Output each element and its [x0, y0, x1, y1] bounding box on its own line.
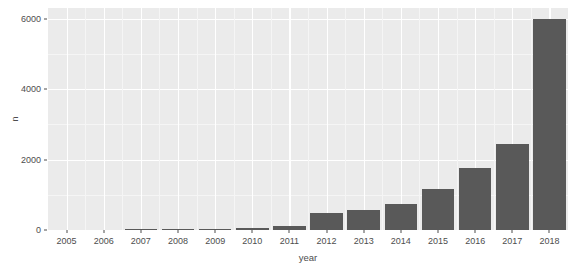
gridline-minor-vertical: [85, 8, 86, 230]
gridline-major-vertical: [67, 8, 68, 230]
bar-2013: [347, 210, 380, 230]
x-axis-tick-label: 2018: [539, 236, 559, 246]
x-axis-tick-mark: [178, 230, 179, 233]
gridline-minor-vertical: [419, 8, 420, 230]
gridline-minor-vertical: [382, 8, 383, 230]
plot-panel: [48, 8, 568, 230]
gridline-minor-vertical: [159, 8, 160, 230]
gridline-minor-vertical: [308, 8, 309, 230]
x-axis-tick-mark: [438, 230, 439, 233]
x-axis-tick-mark: [400, 230, 401, 233]
x-axis-tick-mark: [549, 230, 550, 233]
gridline-major-vertical: [215, 8, 216, 230]
x-axis-tick-mark: [66, 230, 67, 233]
x-axis-tick-label: 2016: [465, 236, 485, 246]
gridline-major-vertical: [141, 8, 142, 230]
gridline-major-vertical: [104, 8, 105, 230]
bar-2015: [422, 189, 455, 230]
gridline-minor-vertical: [531, 8, 532, 230]
x-axis-tick-mark: [475, 230, 476, 233]
bar-2016: [459, 168, 492, 230]
x-axis-tick-mark: [215, 230, 216, 233]
x-axis-tick-label: 2005: [57, 236, 77, 246]
gridline-minor-vertical: [234, 8, 235, 230]
x-axis-tick-mark: [363, 230, 364, 233]
y-axis-tick-label: 6000: [21, 14, 41, 24]
x-axis-tick-mark: [140, 230, 141, 233]
x-axis-tick-label: 2008: [168, 236, 188, 246]
x-axis-tick-label: 2015: [428, 236, 448, 246]
gridline-major-vertical: [364, 8, 365, 230]
x-axis-tick-label: 2014: [391, 236, 411, 246]
bar-chart: n 0200040006000 200520062007200820092010…: [0, 0, 575, 277]
x-axis-tick-mark: [512, 230, 513, 233]
x-axis-tick-mark: [252, 230, 253, 233]
gridline-major-vertical: [252, 8, 253, 230]
y-axis-tick-label: 2000: [21, 155, 41, 165]
gridline-major-vertical: [327, 8, 328, 230]
y-axis-tick-mark: [44, 89, 47, 90]
x-axis-tick-label: 2017: [502, 236, 522, 246]
x-axis-tick-label: 2013: [354, 236, 374, 246]
gridline-minor-vertical: [494, 8, 495, 230]
x-axis-title: year: [48, 252, 568, 263]
gridline-major-vertical: [289, 8, 290, 230]
y-axis-tick-mark: [44, 159, 47, 160]
x-axis-tick-label: 2007: [131, 236, 151, 246]
x-axis-tick-label: 2011: [280, 236, 299, 246]
bar-2018: [533, 19, 566, 230]
y-axis-tick-mark: [44, 230, 47, 231]
bar-2017: [496, 144, 529, 230]
y-axis-tick-group: 0200040006000: [0, 0, 48, 277]
y-axis-tick-mark: [44, 18, 47, 19]
x-axis-tick-label: 2012: [317, 236, 337, 246]
gridline-major-vertical: [178, 8, 179, 230]
gridline-minor-vertical: [197, 8, 198, 230]
bar-2012: [310, 213, 343, 230]
x-axis-tick-label: 2010: [242, 236, 262, 246]
y-axis-tick-label: 4000: [21, 84, 41, 94]
gridline-minor-vertical: [345, 8, 346, 230]
gridline-minor-vertical: [271, 8, 272, 230]
x-axis-tick-mark: [289, 230, 290, 233]
gridline-minor-vertical: [122, 8, 123, 230]
x-axis-tick-mark: [103, 230, 104, 233]
bar-2014: [385, 204, 418, 230]
y-axis-tick-label: 0: [36, 225, 41, 235]
x-axis-tick-label: 2006: [94, 236, 114, 246]
gridline-major-vertical: [401, 8, 402, 230]
x-axis-tick-mark: [326, 230, 327, 233]
x-axis-tick-label: 2009: [205, 236, 225, 246]
gridline-minor-vertical: [457, 8, 458, 230]
